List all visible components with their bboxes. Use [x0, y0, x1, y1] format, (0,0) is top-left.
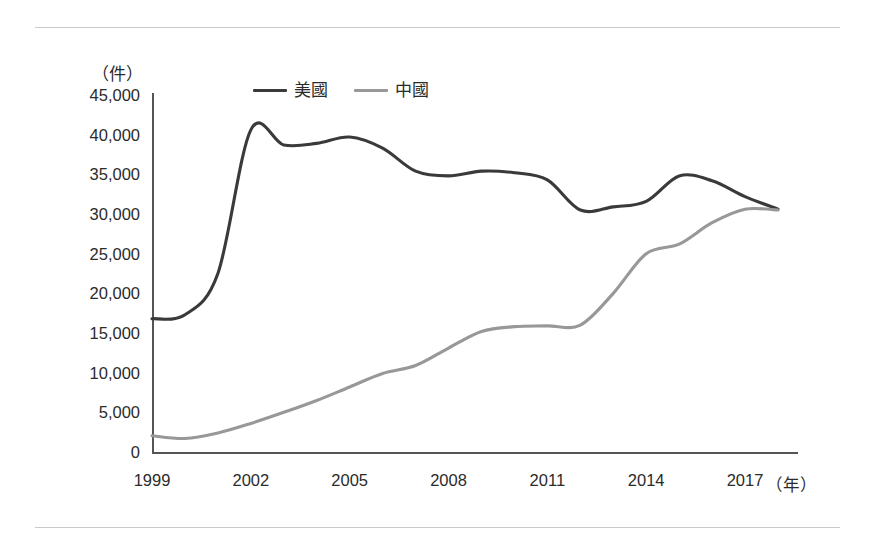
line-swatch-gray-icon: [354, 89, 388, 92]
series-lines-svg: [152, 95, 778, 452]
x-tick-label: 2008: [414, 472, 484, 489]
line-swatch-dark-icon: [253, 89, 287, 92]
y-tick-label: 30,000: [62, 206, 140, 223]
x-tick-label: 2011: [512, 472, 582, 489]
series-line-us: [152, 123, 778, 319]
x-axis-unit-label: （年）: [766, 472, 817, 496]
y-tick-label: 40,000: [62, 127, 140, 144]
y-tick-label: 20,000: [62, 285, 140, 302]
x-axis-line: [152, 452, 798, 454]
x-tick-label: 2002: [216, 472, 286, 489]
series-line-china: [152, 208, 778, 438]
y-tick-label: 10,000: [62, 365, 140, 382]
x-tick-label: 2005: [315, 472, 385, 489]
x-tick-label: 1999: [117, 472, 187, 489]
y-tick-label: 15,000: [62, 325, 140, 342]
line-chart-figure: （件） 45,00040,00035,00030,00025,00020,000…: [0, 0, 871, 549]
plot-area: [152, 95, 778, 452]
x-tick-label: 2014: [611, 472, 681, 489]
y-tick-label: 25,000: [62, 246, 140, 263]
y-tick-label: 5,000: [62, 404, 140, 421]
y-tick-label: 0: [62, 444, 140, 461]
y-axis-unit-label: （件）: [92, 60, 143, 85]
y-tick-label: 35,000: [62, 166, 140, 183]
y-tick-label: 45,000: [62, 87, 140, 104]
